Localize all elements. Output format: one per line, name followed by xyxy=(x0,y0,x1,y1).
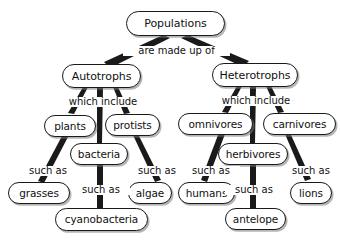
node-lions[interactable]: lions xyxy=(290,182,332,204)
node-cyanobacteria-label: cyanobacteria xyxy=(65,214,138,225)
node-omnivores[interactable]: omnivores xyxy=(178,113,253,135)
link-label-such-as-cyanobacteria: such as xyxy=(72,185,130,195)
link-label-which-include-right: which include xyxy=(211,96,301,106)
node-heterotrophs[interactable]: Heterotrophs xyxy=(212,63,298,87)
node-carnivores-label: carnivores xyxy=(273,119,327,130)
link-label-such-as-algae: such as xyxy=(128,166,186,176)
node-bacteria-label: bacteria xyxy=(78,149,120,160)
node-heterotrophs-label: Heterotrophs xyxy=(220,70,291,81)
link-label-such-as-grasses: such as xyxy=(19,166,77,176)
node-protists-label: protists xyxy=(113,120,151,131)
node-populations-label: Populations xyxy=(144,18,206,29)
node-autotrophs[interactable]: Autotrophs xyxy=(62,64,141,88)
node-antelope[interactable]: antelope xyxy=(225,208,286,230)
node-humans-label: humans xyxy=(186,188,228,199)
node-grasses-label: grasses xyxy=(19,188,59,199)
link-label-such-as-humans: such as xyxy=(182,166,240,176)
node-populations[interactable]: Populations xyxy=(126,11,225,36)
node-carnivores[interactable]: carnivores xyxy=(263,113,336,135)
node-herbivores[interactable]: herbivores xyxy=(218,143,288,165)
node-bacteria[interactable]: bacteria xyxy=(70,143,128,165)
link-label-such-as-antelope: such as xyxy=(225,185,283,195)
node-omnivores-label: omnivores xyxy=(189,119,243,130)
node-algae[interactable]: algae xyxy=(128,182,172,204)
link-label-which-include-left: which include xyxy=(58,97,148,107)
node-plants-label: plants xyxy=(54,121,86,132)
node-autotrophs-label: Autotrophs xyxy=(72,71,132,82)
node-algae-label: algae xyxy=(136,188,164,199)
node-herbivores-label: herbivores xyxy=(226,149,281,160)
concept-map-diagram: Populations are made up of Autotrophs He… xyxy=(0,0,340,246)
node-lions-label: lions xyxy=(299,188,323,199)
node-cyanobacteria[interactable]: cyanobacteria xyxy=(55,208,148,231)
link-label-are-made-up-of: are made up of xyxy=(123,46,230,56)
node-grasses[interactable]: grasses xyxy=(8,182,70,204)
link-label-such-as-lions: such as xyxy=(282,166,340,176)
node-antelope-label: antelope xyxy=(233,214,278,225)
node-protists[interactable]: protists xyxy=(105,114,160,136)
node-plants[interactable]: plants xyxy=(44,115,96,137)
